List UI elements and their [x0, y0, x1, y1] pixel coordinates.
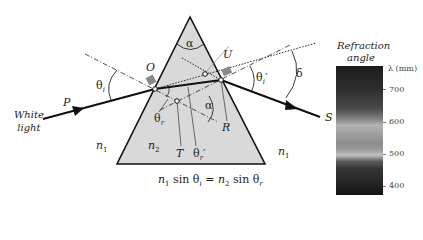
label-U: U: [223, 49, 232, 60]
tick-700: [383, 89, 386, 90]
label-theta-r-prime: θr′: [193, 148, 205, 162]
spectrum-title: Refractionangle: [337, 40, 385, 64]
point-U: [203, 72, 208, 77]
tick-400: [383, 186, 386, 187]
point-O: [153, 87, 158, 92]
spectrum-unit-label: λ (mm): [388, 64, 417, 73]
label-theta-i: θi: [96, 80, 105, 94]
point-T: [175, 99, 180, 104]
label-alpha-inner: α: [205, 100, 212, 111]
label-R: R: [222, 122, 230, 133]
label-P: P: [63, 97, 70, 108]
theta-i-arc: [109, 70, 117, 100]
label-alpha-apex: α: [186, 38, 193, 49]
point-R: [219, 78, 224, 83]
label-white-light: Whitelight: [14, 108, 44, 134]
emergent-arrowhead: [285, 100, 298, 110]
tick-label-600: 600: [389, 117, 404, 126]
label-delta: δ: [296, 68, 303, 79]
tick-600: [383, 122, 386, 123]
tick-label-400: 400: [389, 181, 404, 190]
marker-O: [146, 75, 157, 86]
label-theta-r: θr: [154, 113, 164, 127]
label-O: O: [146, 62, 155, 73]
tick-500: [383, 154, 386, 155]
label-S: S: [325, 112, 333, 123]
tick-label-700: 700: [389, 85, 404, 94]
tick-label-500: 500: [389, 149, 404, 158]
label-T: T: [176, 148, 183, 159]
label-n1-left: n1: [96, 140, 108, 154]
refraction-spectrum-bar: [336, 66, 383, 195]
label-n2: n2: [148, 140, 160, 154]
label-theta-i-prime: θi′: [256, 72, 267, 86]
theta-i-prime-arc: [250, 66, 254, 92]
label-n1-right: n1: [278, 146, 290, 160]
snell-equation: n1 sin θi = n2 sin θr: [158, 174, 263, 188]
